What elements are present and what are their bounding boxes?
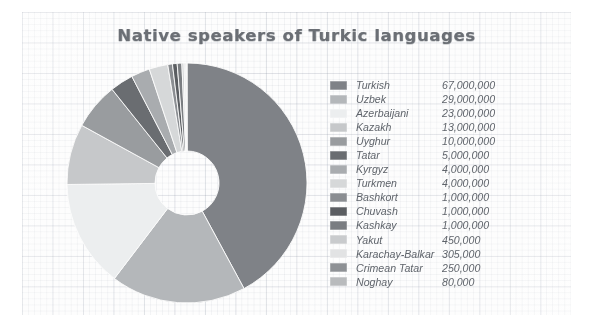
legend-label: Noghay — [356, 276, 442, 288]
legend-value: 305,000 — [442, 248, 480, 260]
legend-value: 1,000,000 — [442, 219, 489, 231]
chart-page: Native speakers of Turkic languages Turk… — [0, 0, 593, 336]
legend-color-swatch — [330, 179, 347, 188]
legend-item: Uyghur10,000,000 — [330, 134, 545, 148]
legend-label: Kashkay — [356, 219, 442, 231]
legend-color-swatch — [330, 249, 347, 258]
legend-color-swatch — [330, 277, 347, 286]
legend-label: Crimean Tatar — [356, 262, 442, 274]
legend-label: Kazakh — [356, 121, 442, 133]
legend-value: 1,000,000 — [442, 191, 489, 203]
legend-value: 80,000 — [442, 276, 474, 288]
legend-item: Kyrgyz4,000,000 — [330, 162, 545, 176]
legend-item: Turkmen4,000,000 — [330, 176, 545, 190]
legend-item: Crimean Tatar250,000 — [330, 261, 545, 275]
legend-value: 29,000,000 — [442, 93, 495, 105]
pie-slice-group — [67, 63, 307, 303]
legend-label: Turkmen — [356, 177, 442, 189]
donut-chart-svg — [67, 63, 307, 303]
legend-value: 4,000,000 — [442, 177, 489, 189]
legend-label: Chuvash — [356, 205, 442, 217]
chart-legend: Turkish67,000,000Uzbek29,000,000Azerbaij… — [330, 78, 545, 289]
legend-label: Yakut — [356, 234, 442, 246]
legend-color-swatch — [330, 193, 347, 202]
legend-label: Uyghur — [356, 135, 442, 147]
legend-item: Kazakh13,000,000 — [330, 120, 545, 134]
legend-item: Azerbaijani23,000,000 — [330, 106, 545, 120]
legend-color-swatch — [330, 207, 347, 216]
legend-color-swatch — [330, 137, 347, 146]
legend-label: Azerbaijani — [356, 107, 442, 119]
legend-color-swatch — [330, 95, 347, 104]
legend-item: Uzbek29,000,000 — [330, 92, 545, 106]
legend-value: 4,000,000 — [442, 163, 489, 175]
legend-value: 1,000,000 — [442, 205, 489, 217]
legend-value: 67,000,000 — [442, 79, 495, 91]
legend-value: 250,000 — [442, 262, 480, 274]
legend-label: Tatar — [356, 149, 442, 161]
legend-value: 23,000,000 — [442, 107, 495, 119]
legend-label: Kyrgyz — [356, 163, 442, 175]
legend-label: Bashkort — [356, 191, 442, 203]
legend-color-swatch — [330, 263, 347, 272]
legend-item: Kashkay1,000,000 — [330, 218, 545, 232]
legend-color-swatch — [330, 123, 347, 132]
legend-item: Noghay80,000 — [330, 275, 545, 289]
legend-value: 5,000,000 — [442, 149, 489, 161]
donut-chart — [67, 63, 307, 303]
legend-value: 450,000 — [442, 234, 480, 246]
legend-label: Karachay-Balkar — [356, 248, 442, 260]
legend-item: Yakut450,000 — [330, 233, 545, 247]
legend-color-swatch — [330, 81, 347, 90]
legend-label: Uzbek — [356, 93, 442, 105]
chart-title: Native speakers of Turkic languages — [0, 26, 593, 45]
legend-item: Tatar5,000,000 — [330, 148, 545, 162]
legend-color-swatch — [330, 151, 347, 160]
legend-item: Karachay-Balkar305,000 — [330, 247, 545, 261]
legend-value: 13,000,000 — [442, 121, 495, 133]
legend-value: 10,000,000 — [442, 135, 495, 147]
legend-item: Chuvash1,000,000 — [330, 204, 545, 218]
legend-color-swatch — [330, 109, 347, 118]
legend-label: Turkish — [356, 79, 442, 91]
legend-item: Bashkort1,000,000 — [330, 190, 545, 204]
legend-color-swatch — [330, 235, 347, 244]
legend-color-swatch — [330, 221, 347, 230]
legend-color-swatch — [330, 165, 347, 174]
legend-item: Turkish67,000,000 — [330, 78, 545, 92]
